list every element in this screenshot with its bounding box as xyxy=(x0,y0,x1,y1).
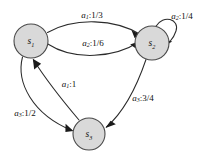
edge-label-s3-s1: a1:1 xyxy=(62,79,77,89)
edge-label-s2-self: a2:1/4 xyxy=(171,11,193,21)
edge-path-s1-s2-upper xyxy=(48,22,141,35)
edge-label-s1-s3: a3:1/2 xyxy=(14,108,36,118)
edge-path-s3-s1 xyxy=(34,60,80,120)
node-s1[interactable]: s1 xyxy=(14,24,48,58)
automaton-canvas: s1 s2 s3 a1:1/3 a2:1/6 a2:1/4 a3:3/4 a3:… xyxy=(0,0,205,159)
node-s3[interactable]: s3 xyxy=(73,118,105,150)
automaton-diagram: s1 s2 s3 a1:1/3 a2:1/6 a2:1/4 a3:3/4 a3:… xyxy=(0,0,205,159)
arrow-head-s2-s3 xyxy=(105,121,115,128)
arrow-head-s1-s3 xyxy=(65,124,73,132)
edge-s1-to-s2-upper xyxy=(48,22,142,38)
edge-label-s1-s2-lower: a2:1/6 xyxy=(82,38,104,48)
node-s2[interactable]: s2 xyxy=(135,26,169,60)
edge-s3-to-s1 xyxy=(33,59,79,120)
edge-label-s2-s3: a3:3/4 xyxy=(132,93,154,103)
arrow-head-s3-s1 xyxy=(33,59,41,70)
edge-label-s1-s2-upper: a1:1/3 xyxy=(81,10,103,20)
edge-s1-to-s3 xyxy=(21,57,73,132)
edge-path-s1-s3 xyxy=(21,57,72,131)
